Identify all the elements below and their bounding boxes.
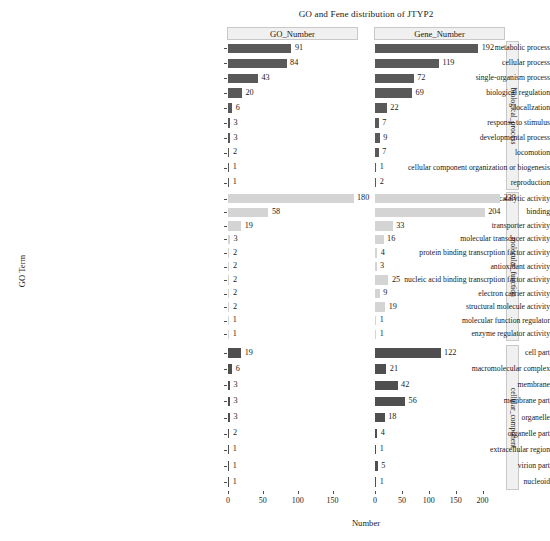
category-label: electron carrier activity [326, 290, 550, 298]
category-label: reproduction [326, 179, 550, 187]
category-tick [224, 434, 227, 435]
category-tick [224, 63, 227, 64]
bar [375, 221, 393, 230]
bar-value-label: 1 [233, 330, 237, 338]
bar [375, 208, 485, 217]
bar-value-label: 3 [380, 262, 384, 270]
bar-value-label: 25 [392, 276, 400, 284]
category-tick [224, 401, 227, 402]
x-axis-tick-label: 100 [414, 496, 444, 505]
category-label: molecular transducer activity [326, 235, 550, 243]
bar-value-label: 21 [390, 365, 398, 373]
x-axis-tick-label: 0 [213, 496, 243, 505]
bar-value-label: 1 [233, 478, 237, 486]
bar [228, 163, 229, 172]
bar-value-label: 1 [233, 178, 237, 186]
bar-value-label: 58 [272, 208, 280, 216]
bar [228, 248, 229, 257]
bar [375, 59, 439, 68]
bar-value-label: 180 [357, 194, 369, 202]
category-tick [224, 307, 227, 308]
bar-value-label: 3 [234, 381, 238, 389]
bar-value-label: 1 [380, 163, 384, 171]
bar-value-label: 19 [245, 222, 253, 230]
bar [375, 348, 441, 357]
bar-value-label: 2 [233, 303, 237, 311]
category-label: locomotion [326, 149, 550, 157]
x-axis-tick-label: 200 [468, 496, 498, 505]
bar [228, 221, 241, 230]
x-axis-tick [429, 491, 430, 494]
category-label: single-organism process [326, 74, 550, 82]
bar-value-label: 69 [416, 89, 424, 97]
x-axis-tick-label: 150 [318, 496, 348, 505]
category-label: developmental process [326, 134, 550, 142]
bar-value-label: 42 [401, 381, 409, 389]
bar-value-label: 91 [295, 44, 303, 52]
bar [375, 262, 377, 271]
bar-value-label: 3 [234, 413, 238, 421]
bar-value-label: 9 [383, 134, 387, 142]
chart-title: GO and Fene distribution of JTYP2 [228, 9, 504, 19]
category-tick [224, 267, 227, 268]
category-tick [224, 108, 227, 109]
bar-value-label: 7 [382, 119, 386, 127]
category-tick [224, 93, 227, 94]
bar [228, 364, 232, 373]
category-label: membrane part [326, 397, 550, 405]
bar-value-label: 2 [233, 262, 237, 270]
bar-value-label: 6 [236, 104, 240, 112]
category-tick [224, 353, 227, 354]
category-label: enzyme regulator activity [326, 330, 550, 338]
go-distribution-chart: GO and Fene distribution of JTYP2 GO_Num… [0, 0, 550, 541]
x-axis-tick [375, 491, 376, 494]
category-label: structural molecule activity [326, 303, 550, 311]
bar [375, 429, 377, 438]
bar-value-label: 2 [233, 249, 237, 257]
bar [228, 118, 230, 127]
bar-value-label: 19 [389, 303, 397, 311]
bar-value-label: 56 [409, 397, 417, 405]
bar-value-label: 1 [233, 445, 237, 453]
category-tick [224, 253, 227, 254]
bar-value-label: 2 [380, 178, 384, 186]
bar [375, 118, 379, 127]
category-tick [224, 153, 227, 154]
bar [375, 103, 387, 112]
bar [228, 397, 230, 406]
category-label: nucleoid [326, 478, 550, 486]
bar-value-label: 5 [381, 462, 385, 470]
x-axis-tick [402, 491, 403, 494]
bar [375, 381, 398, 390]
category-label: antioxidant activity [326, 263, 550, 271]
bar-value-label: 33 [396, 222, 404, 230]
bar [375, 461, 378, 470]
bar-value-label: 20 [245, 89, 253, 97]
bar-value-label: 7 [382, 148, 386, 156]
x-axis-tick-label: 100 [283, 496, 313, 505]
category-tick [224, 280, 227, 281]
bar [228, 208, 268, 217]
bar [228, 413, 230, 422]
bar [375, 44, 478, 53]
bar [228, 316, 229, 325]
bar [375, 74, 414, 83]
bar-value-label: 1 [233, 163, 237, 171]
bar-value-label: 3 [234, 134, 238, 142]
bar [228, 44, 291, 53]
bar-value-label: 1 [380, 445, 384, 453]
bar [228, 148, 229, 157]
bar [375, 148, 379, 157]
x-axis-tick [263, 491, 264, 494]
bar-value-label: 119 [442, 59, 454, 67]
bar [228, 302, 229, 311]
bar [375, 235, 384, 244]
category-tick [224, 168, 227, 169]
bar-value-label: 122 [444, 349, 456, 357]
x-axis-tick [298, 491, 299, 494]
category-label: virion part [326, 462, 550, 470]
bar [228, 445, 229, 454]
category-label: molecular function regulator [326, 317, 550, 325]
category-tick [224, 123, 227, 124]
bar-value-label: 1 [380, 316, 384, 324]
